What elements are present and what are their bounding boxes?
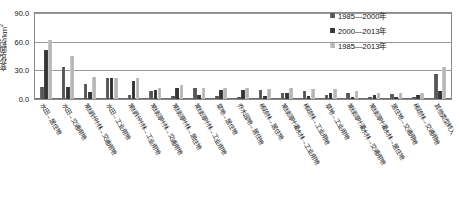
bar[interactable] bbox=[70, 56, 74, 99]
bar[interactable] bbox=[175, 88, 179, 99]
bar[interactable] bbox=[110, 78, 114, 99]
bar[interactable] bbox=[245, 88, 249, 99]
bar-group bbox=[215, 13, 227, 99]
bar-group bbox=[128, 13, 140, 99]
y-axis-tick-labels: 0.030.060.090.0 bbox=[0, 12, 32, 100]
bar[interactable] bbox=[197, 95, 201, 99]
bar[interactable] bbox=[128, 95, 132, 99]
bar[interactable] bbox=[193, 88, 197, 99]
bar[interactable] bbox=[390, 94, 394, 99]
bar-group bbox=[84, 13, 96, 99]
bar[interactable] bbox=[325, 95, 329, 99]
bar[interactable] bbox=[241, 90, 245, 99]
x-axis-category-labels: 水田→居住地水田→交通用地常绿针叶林→交通用地水田→工业用地常绿针叶林→工业用地… bbox=[35, 101, 451, 213]
bar[interactable] bbox=[442, 67, 446, 99]
legend-label: 1985—2000年 bbox=[338, 10, 387, 21]
bar[interactable] bbox=[285, 93, 289, 99]
bar[interactable] bbox=[329, 93, 333, 99]
y-axis-tick-label: 60.0 bbox=[15, 37, 29, 46]
bar-group bbox=[303, 13, 315, 99]
legend-swatch-2000-2013 bbox=[330, 28, 335, 33]
bar[interactable] bbox=[171, 96, 175, 99]
bar[interactable] bbox=[259, 90, 263, 99]
bar[interactable] bbox=[106, 78, 110, 99]
chart-legend: 1985—2000年2000—2013年1985—2013年 bbox=[330, 10, 387, 51]
legend-item[interactable]: 2000—2013年 bbox=[330, 25, 387, 36]
bar[interactable] bbox=[88, 92, 92, 99]
y-axis-tick-label: 0.0 bbox=[19, 95, 29, 104]
bar-group bbox=[40, 13, 52, 99]
bar[interactable] bbox=[114, 78, 118, 99]
x-axis-label: 常绿阔叶灌木林→交通用地 bbox=[345, 101, 388, 166]
bar[interactable] bbox=[136, 78, 140, 100]
bar[interactable] bbox=[223, 88, 227, 99]
bar[interactable] bbox=[289, 88, 293, 99]
bar[interactable] bbox=[219, 90, 223, 99]
bar[interactable] bbox=[368, 97, 372, 99]
bar-group bbox=[237, 13, 249, 99]
legend-swatch-1985-2000 bbox=[330, 13, 335, 18]
bar[interactable] bbox=[40, 87, 44, 99]
bar[interactable] bbox=[438, 91, 442, 99]
bar[interactable] bbox=[215, 96, 219, 99]
bar[interactable] bbox=[62, 67, 66, 99]
bar[interactable] bbox=[307, 96, 311, 99]
bar[interactable] bbox=[373, 95, 377, 99]
chart-screenshot: 变化面积/km2 0.030.060.090.0 1985—2000年2000—… bbox=[0, 0, 460, 215]
bar[interactable] bbox=[351, 97, 355, 99]
bar[interactable] bbox=[202, 88, 206, 99]
x-axis-label: 常绿阔叶灌木林→工业用地 bbox=[279, 101, 322, 166]
bar[interactable] bbox=[84, 84, 88, 99]
bar[interactable] bbox=[416, 95, 420, 99]
bar[interactable] bbox=[263, 96, 267, 99]
y-axis-tick-label: 30.0 bbox=[15, 66, 29, 75]
bar[interactable] bbox=[420, 93, 424, 99]
bar[interactable] bbox=[158, 88, 162, 99]
bar[interactable] bbox=[377, 93, 381, 99]
bar-group bbox=[390, 13, 402, 99]
bar[interactable] bbox=[267, 89, 271, 100]
bar[interactable] bbox=[399, 93, 403, 99]
legend-item[interactable]: 1985—2013年 bbox=[330, 40, 387, 51]
bar-groups bbox=[35, 13, 451, 99]
bar[interactable] bbox=[303, 91, 307, 99]
bar[interactable] bbox=[281, 93, 285, 99]
bar[interactable] bbox=[132, 81, 136, 99]
legend-swatch-1985-2013 bbox=[330, 43, 335, 48]
bar[interactable] bbox=[311, 89, 315, 100]
legend-label: 1985—2013年 bbox=[338, 40, 387, 51]
bar[interactable] bbox=[180, 85, 184, 99]
bar[interactable] bbox=[66, 87, 70, 99]
bar[interactable] bbox=[237, 97, 241, 99]
bar-group bbox=[62, 13, 74, 99]
y-axis-tick-label: 90.0 bbox=[15, 9, 29, 18]
bar[interactable] bbox=[434, 74, 438, 99]
bar[interactable] bbox=[48, 40, 52, 99]
bar[interactable] bbox=[333, 89, 337, 99]
bar-group bbox=[259, 13, 271, 99]
bar[interactable] bbox=[355, 91, 359, 99]
bar[interactable] bbox=[149, 91, 153, 99]
bar-group bbox=[281, 13, 293, 99]
bar-group bbox=[149, 13, 161, 99]
legend-item[interactable]: 1985—2000年 bbox=[330, 10, 387, 21]
bar[interactable] bbox=[154, 90, 158, 99]
bar-group bbox=[193, 13, 205, 99]
bar-group bbox=[412, 13, 424, 99]
bar[interactable] bbox=[92, 77, 96, 99]
bar[interactable] bbox=[412, 97, 416, 99]
bar-group bbox=[434, 13, 446, 99]
bar[interactable] bbox=[394, 97, 398, 99]
bar-group bbox=[171, 13, 183, 99]
legend-label: 2000—2013年 bbox=[338, 25, 387, 36]
bar[interactable] bbox=[44, 50, 48, 99]
bar-group bbox=[106, 13, 118, 99]
bar[interactable] bbox=[346, 93, 350, 99]
